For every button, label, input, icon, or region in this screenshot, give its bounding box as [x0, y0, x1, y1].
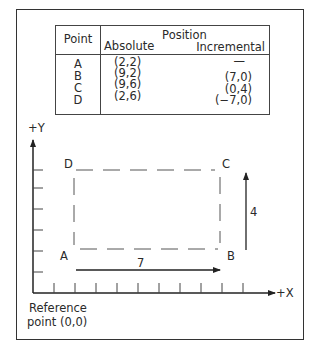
dimension-7-label: 7 — [137, 256, 144, 270]
point-d-label: D — [64, 157, 73, 171]
point-c-label: C — [222, 157, 230, 171]
dashed-rectangle — [74, 170, 220, 249]
x-axis-ticks — [54, 283, 243, 293]
y-axis-label: +Y — [28, 121, 45, 135]
reference-label-line1: Reference — [29, 301, 87, 315]
y-axis-ticks — [33, 170, 43, 272]
point-a-label: A — [60, 249, 68, 263]
dimension-4-label: 4 — [250, 205, 257, 219]
x-axis-label: +X — [276, 286, 294, 300]
coordinate-diagram — [0, 0, 315, 345]
reference-label-line2: point (0,0) — [27, 315, 87, 329]
point-b-label: B — [227, 249, 235, 263]
